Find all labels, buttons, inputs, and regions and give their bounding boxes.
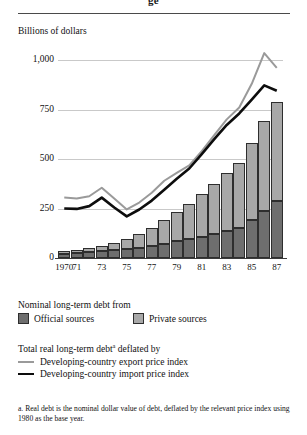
line-legend: Total real long-term debta deflated by D… (18, 344, 189, 379)
x-tick-label: 81 (197, 262, 206, 272)
footnote-text: a. Real debt is the nominal dollar value… (18, 404, 290, 424)
official-swatch-icon (18, 313, 29, 324)
legend-label-official: Official sources (34, 314, 94, 324)
import-line-icon (18, 373, 34, 375)
header-rule (18, 13, 290, 14)
title-fragment: ge (0, 0, 307, 6)
x-tick-label: 75 (122, 262, 131, 272)
x-axis-labels: 1970717375777981838587 (58, 262, 286, 276)
x-tick-label: 1970 (55, 262, 73, 272)
x-tick-label: 79 (172, 262, 181, 272)
line-import (64, 85, 277, 216)
private-swatch-icon (133, 313, 144, 324)
y-tick-label: 750 (40, 104, 54, 114)
x-tick-label: 83 (222, 262, 231, 272)
legend-label-import: Developing-country import price index (40, 369, 189, 379)
line-legend-title-suffix: deflated by (115, 344, 160, 354)
x-tick-label: 85 (247, 262, 256, 272)
legend-label-export: Developing-country export price index (40, 357, 188, 367)
line-series (58, 60, 283, 258)
x-tick-label: 73 (97, 262, 106, 272)
bar-legend-title: Nominal long-term debt from (18, 300, 207, 310)
legend-item-official: Official sources (18, 313, 133, 324)
x-tick-label: 77 (147, 262, 156, 272)
line-legend-title-prefix: Total real long-term debt (18, 344, 113, 354)
x-axis-line (55, 258, 287, 259)
legend-item-private: Private sources (133, 313, 207, 324)
y-axis-title: Billions of dollars (18, 26, 87, 36)
bar-legend: Nominal long-term debt from Official sou… (18, 300, 207, 324)
y-tick-label: 0 (49, 252, 54, 262)
x-tick-label: 87 (272, 262, 281, 272)
y-tick-label: 1,000 (33, 54, 54, 64)
plot-area (58, 60, 283, 258)
y-tick-label: 500 (40, 153, 54, 163)
legend-item-import: Developing-country import price index (18, 369, 189, 379)
export-line-icon (18, 361, 34, 363)
legend-item-export: Developing-country export price index (18, 357, 189, 367)
y-axis-labels: 02505007501,000 (0, 60, 54, 258)
line-export (64, 53, 277, 209)
y-tick-label: 250 (40, 203, 54, 213)
x-tick-label: 71 (72, 262, 81, 272)
figure-panel: ge Billions of dollars 02505007501,000 1… (0, 0, 307, 435)
line-legend-title: Total real long-term debta deflated by (18, 344, 189, 354)
legend-label-private: Private sources (149, 314, 207, 324)
